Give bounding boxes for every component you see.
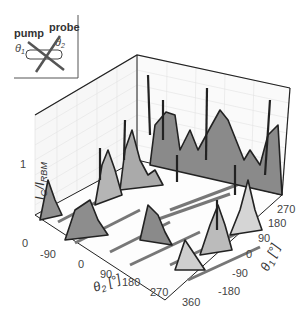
- svg-text:-90: -90: [232, 267, 248, 279]
- svg-text:0: 0: [246, 248, 252, 260]
- svg-text:IG/IRBM: IG/IRBM: [32, 162, 49, 200]
- svg-text:-180: -180: [218, 285, 240, 297]
- svg-text:0: 0: [22, 237, 28, 249]
- svg-text:270: 270: [150, 286, 168, 298]
- svg-text:θ1 [°]: θ1 [°]: [257, 241, 284, 274]
- svg-text:270: 270: [277, 203, 295, 215]
- svg-text:360: 360: [182, 296, 200, 308]
- svg-text:180: 180: [122, 276, 140, 288]
- svg-text:180: 180: [268, 217, 286, 229]
- svg-text:1: 1: [20, 158, 26, 170]
- inset-schematic: pump probe θ1 θ2: [14, 15, 80, 78]
- svg-text:θ2 [°]: θ2 [°]: [91, 271, 124, 297]
- svg-text:-90: -90: [40, 248, 56, 260]
- svg-text:0: 0: [78, 258, 84, 270]
- svg-text:θ1: θ1: [15, 42, 25, 55]
- svg-text:probe: probe: [49, 21, 80, 33]
- svg-text:pump: pump: [14, 27, 44, 39]
- chart-3d: 1 0 IG/IRBM -90 0 90 180 270 360 θ2 [°] …: [0, 0, 308, 321]
